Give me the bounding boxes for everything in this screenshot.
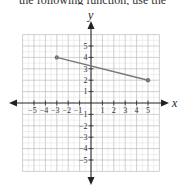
x-tick-label: 1 bbox=[100, 106, 104, 115]
x-tick-label: 3 bbox=[123, 106, 127, 115]
y-axis-label: y bbox=[87, 8, 94, 22]
y-tick-label: 4 bbox=[84, 53, 88, 62]
y-tick-label: 3 bbox=[84, 65, 88, 74]
x-tick-label: −5 bbox=[28, 106, 37, 115]
x-tick-labels: −5 −4 −3 −2 −1 1 2 3 4 5 bbox=[28, 106, 150, 115]
x-axis-left-arrow-icon bbox=[9, 100, 17, 107]
y-tick-label: 2 bbox=[84, 76, 88, 85]
x-axis-label: x bbox=[171, 96, 178, 110]
x-tick-label: 5 bbox=[146, 106, 150, 115]
endpoint-dot bbox=[55, 55, 59, 59]
y-axis-down-arrow-icon bbox=[88, 177, 95, 185]
x-tick-label: 4 bbox=[135, 106, 139, 115]
x-tick-label: −2 bbox=[62, 106, 71, 115]
x-tick-label: −4 bbox=[40, 106, 49, 115]
x-tick-label: −3 bbox=[51, 106, 60, 115]
y-tick-label: 5 bbox=[84, 42, 88, 51]
y-tick-label: 1 bbox=[84, 87, 88, 96]
endpoint-dot bbox=[146, 78, 150, 82]
y-tick-label: −2 bbox=[79, 122, 88, 131]
y-tick-label: −5 bbox=[79, 156, 88, 165]
x-tick-label: 2 bbox=[112, 106, 116, 115]
x-axis-right-arrow-icon bbox=[161, 100, 169, 107]
y-axis-up-arrow-icon bbox=[88, 21, 95, 29]
y-tick-label: −3 bbox=[79, 133, 88, 142]
y-tick-label: −4 bbox=[79, 144, 88, 153]
y-tick-label: −1 bbox=[79, 110, 88, 119]
coordinate-plane: −5 −4 −3 −2 −1 1 2 3 4 5 5 4 3 2 1 −1 −2… bbox=[0, 0, 185, 191]
